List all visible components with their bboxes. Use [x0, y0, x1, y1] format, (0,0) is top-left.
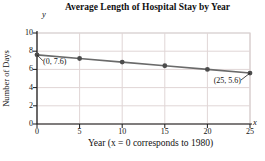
annotation-label: (0, 7.6) [43, 57, 66, 66]
y-tick-label: 10 [13, 28, 33, 37]
hospital-stay-line-chart: Average Length of Hospital Stay by Year … [0, 0, 265, 161]
x-tick-label: 15 [155, 127, 175, 136]
data-point-marker [77, 56, 82, 61]
x-tick-label: 10 [112, 127, 132, 136]
x-tick-label: 25 [240, 127, 260, 136]
y-tick-label: 6 [13, 64, 33, 73]
data-point-marker [162, 63, 167, 68]
x-tick-label: 0 [27, 127, 47, 136]
x-tick-label: 5 [70, 127, 90, 136]
x-tick-label: 20 [197, 127, 217, 136]
y-tick-label: 4 [13, 83, 33, 92]
x-axis-label: Year (x = 0 corresponds to 1980) [36, 138, 265, 149]
y-axis-label: Number of Days [1, 33, 11, 124]
x-axis-letter: x [253, 118, 257, 127]
y-tick-label: 8 [13, 46, 33, 55]
data-point-marker [205, 67, 210, 72]
y-tick-label: 2 [13, 101, 33, 110]
data-point-marker [120, 60, 125, 65]
y-tick-label: 0 [13, 119, 33, 128]
annotation-label: (25, 5.6) [214, 76, 241, 85]
